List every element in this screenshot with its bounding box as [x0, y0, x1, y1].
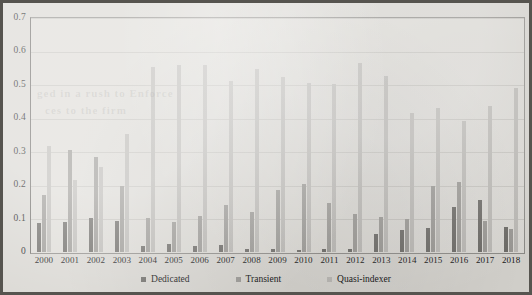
- bar-transient-2017: [483, 221, 487, 252]
- bar-dedicated-2004: [141, 246, 145, 252]
- bar-quasi-indexer-2008: [255, 69, 259, 252]
- y-axis-tick-labels: 00.10.20.30.40.50.60.7: [3, 3, 30, 254]
- bar-transient-2008: [250, 212, 254, 252]
- x-tick-2012: 2012: [342, 255, 368, 265]
- bar-quasi-indexer-2000: [47, 146, 51, 252]
- bar-dedicated-2017: [478, 200, 482, 252]
- x-tick-2009: 2009: [265, 255, 291, 265]
- x-tick-2014: 2014: [394, 255, 420, 265]
- bar-quasi-indexer-2012: [358, 63, 362, 252]
- bar-dedicated-2009: [271, 249, 275, 252]
- bar-dedicated-2011: [322, 249, 326, 252]
- bar-transient-2013: [379, 217, 383, 252]
- y-tick-0.7: 0.7: [14, 12, 26, 22]
- bar-quasi-indexer-2017: [488, 106, 492, 252]
- bar-quasi-indexer-2009: [281, 77, 285, 253]
- chart-legend: DedicatedTransientQuasi-indexer: [3, 274, 529, 284]
- x-tick-2002: 2002: [83, 255, 109, 265]
- bar-dedicated-2006: [193, 246, 197, 252]
- bar-quasi-indexer-2018: [514, 88, 518, 252]
- bar-quasi-indexer-2007: [229, 81, 233, 252]
- bar-transient-2010: [302, 184, 306, 252]
- y-tick-0: 0: [21, 246, 26, 256]
- bar-group-2008: [239, 18, 265, 252]
- x-tick-2007: 2007: [213, 255, 239, 265]
- x-tick-2017: 2017: [472, 255, 498, 265]
- legend-item-transient[interactable]: Transient: [236, 274, 282, 284]
- bar-quasi-indexer-2014: [410, 113, 414, 252]
- bar-dedicated-2013: [374, 234, 378, 252]
- bar-dedicated-2002: [89, 218, 93, 252]
- y-tick-0.6: 0.6: [14, 45, 26, 55]
- bar-dedicated-2015: [426, 228, 430, 252]
- bar-dedicated-2007: [219, 245, 223, 252]
- x-tick-2013: 2013: [368, 255, 394, 265]
- bar-transient-2003: [120, 186, 124, 252]
- legend-swatch-icon: [141, 277, 146, 282]
- y-tick-0.4: 0.4: [14, 112, 26, 122]
- y-tick-0.5: 0.5: [14, 79, 26, 89]
- x-tick-2011: 2011: [316, 255, 342, 265]
- bar-group-2011: [316, 18, 342, 252]
- legend-item-quasi-indexer[interactable]: Quasi-indexer: [327, 274, 391, 284]
- bar-transient-2002: [94, 157, 98, 252]
- bar-transient-2018: [509, 229, 513, 252]
- x-tick-2015: 2015: [420, 255, 446, 265]
- bar-quasi-indexer-2004: [151, 67, 155, 252]
- bar-transient-2011: [327, 203, 331, 252]
- bar-group-2014: [394, 18, 420, 252]
- bar-transient-2001: [68, 150, 72, 252]
- bar-group-2013: [368, 18, 394, 252]
- bar-group-2002: [83, 18, 109, 252]
- x-tick-2000: 2000: [31, 255, 57, 265]
- bar-group-2016: [446, 18, 472, 252]
- bar-dedicated-2018: [504, 227, 508, 252]
- x-tick-2005: 2005: [161, 255, 187, 265]
- legend-label: Quasi-indexer: [337, 274, 391, 284]
- bar-group-2010: [291, 18, 317, 252]
- legend-item-dedicated[interactable]: Dedicated: [141, 274, 190, 284]
- y-tick-0.3: 0.3: [14, 146, 26, 156]
- bar-dedicated-2014: [400, 230, 404, 252]
- bar-transient-2006: [198, 216, 202, 252]
- bar-group-2009: [265, 18, 291, 252]
- x-tick-2004: 2004: [135, 255, 161, 265]
- bar-quasi-indexer-2016: [462, 121, 466, 252]
- bar-dedicated-2000: [37, 223, 41, 252]
- bar-group-2007: [213, 18, 239, 252]
- bar-group-2003: [109, 18, 135, 252]
- bar-quasi-indexer-2013: [384, 76, 388, 252]
- x-tick-2008: 2008: [239, 255, 265, 265]
- bar-quasi-indexer-2006: [203, 65, 207, 252]
- bar-transient-2000: [42, 195, 46, 252]
- bar-quasi-indexer-2010: [307, 83, 311, 252]
- bar-transient-2004: [146, 218, 150, 252]
- bar-transient-2009: [276, 190, 280, 252]
- x-tick-2001: 2001: [57, 255, 83, 265]
- bar-dedicated-2012: [348, 249, 352, 252]
- chart-figure: ged in a rush to Enforce ces to the firm…: [0, 0, 532, 295]
- x-tick-2018: 2018: [498, 255, 524, 265]
- x-tick-2006: 2006: [187, 255, 213, 265]
- x-tick-2016: 2016: [446, 255, 472, 265]
- bar-group-2006: [187, 18, 213, 252]
- y-tick-0.2: 0.2: [14, 179, 26, 189]
- bar-dedicated-2005: [167, 244, 171, 252]
- legend-swatch-icon: [327, 277, 332, 282]
- legend-label: Transient: [246, 274, 282, 284]
- bar-dedicated-2003: [115, 221, 119, 252]
- x-tick-2003: 2003: [109, 255, 135, 265]
- bar-group-2004: [135, 18, 161, 252]
- bar-quasi-indexer-2015: [436, 108, 440, 252]
- bar-transient-2016: [457, 182, 461, 252]
- bar-group-2015: [420, 18, 446, 252]
- bar-group-2001: [57, 18, 83, 252]
- bar-group-2017: [472, 18, 498, 252]
- bar-dedicated-2001: [63, 222, 67, 252]
- bar-dedicated-2008: [245, 249, 249, 252]
- bar-quasi-indexer-2011: [332, 84, 336, 252]
- bar-dedicated-2010: [297, 250, 301, 252]
- bar-transient-2015: [431, 186, 435, 252]
- x-axis-tick-labels: 2000200120022003200420052006200720082009…: [31, 255, 524, 265]
- bar-transient-2007: [224, 205, 228, 252]
